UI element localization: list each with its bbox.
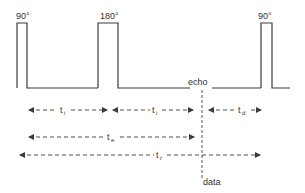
label-ti-2-sub: i [156,110,157,116]
pulse-label-180: 180° [100,11,119,21]
pulse-90-first [17,23,98,88]
pulse-label-90-second: 90° [258,11,272,21]
pulse-sequence-diagram: 90° 180° 90° echo data t i t i t d t e t… [0,0,305,193]
echo-label: echo [188,77,208,87]
data-label: data [203,177,221,187]
pulse-90-second [261,23,290,88]
interval-labels: t i t i t d t e t r [57,103,249,161]
pulse-180 [98,23,190,88]
label-ti-1-sub: i [64,110,65,116]
pulse-label-90-first: 90° [16,11,30,21]
label-tr-sub: r [160,155,162,161]
pulse-train [17,23,290,88]
label-td-sub: d [242,110,245,116]
